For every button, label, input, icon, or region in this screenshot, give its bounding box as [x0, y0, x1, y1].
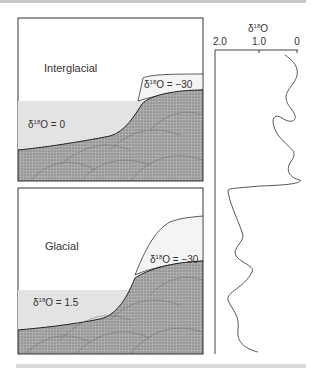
- glacial-title: Glacial: [45, 240, 79, 252]
- diagram: Interglacial δ18O = 0 δ18O = −30 Glacial…: [0, 0, 320, 368]
- isotope-curve: [228, 55, 300, 352]
- isotope-record: δ18O 2.0 1.0 0: [213, 23, 300, 354]
- tick-label-1: 1.0: [252, 36, 266, 47]
- interglacial-panel: Interglacial δ18O = 0 δ18O = −30: [18, 18, 203, 181]
- interglacial-title: Interglacial: [44, 62, 97, 74]
- tick-label-0: 0: [294, 36, 300, 47]
- record-axis-title: δ18O: [248, 23, 268, 34]
- tick-label-2: 2.0: [213, 36, 227, 47]
- glacial-panel: Glacial δ18O = 1.5 δ18O = −30: [18, 188, 203, 354]
